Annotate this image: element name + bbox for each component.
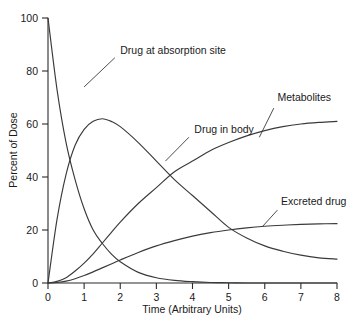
series-label-drug-in-body: Drug in body [194, 123, 254, 135]
x-tick-label: 0 [45, 291, 51, 303]
leader-line-drug-in-body [165, 137, 188, 161]
x-tick-label: 5 [226, 291, 232, 303]
series-label-metabolites: Metabolites [277, 91, 331, 103]
x-tick-label: 3 [153, 291, 159, 303]
pharmacokinetics-chart: 020406080100 Percent of Dose 012345678 T… [0, 0, 354, 323]
y-tick-marks [42, 18, 48, 283]
x-axis-group: 012345678 Time (Arbitrary Units) [45, 283, 340, 315]
x-axis-title: Time (Arbitrary Units) [142, 303, 241, 315]
x-tick-label: 6 [262, 291, 268, 303]
chart-svg: 020406080100 Percent of Dose 012345678 T… [0, 0, 354, 323]
y-tick-label: 20 [26, 224, 38, 236]
x-tick-label: 1 [81, 291, 87, 303]
y-axis-group: 020406080100 Percent of Dose [7, 12, 48, 289]
x-tick-marks [48, 283, 337, 289]
y-tick-label: 100 [20, 12, 38, 24]
x-tick-labels: 012345678 [45, 291, 340, 303]
y-tick-label: 80 [26, 65, 38, 77]
curve-drug-at-absorption-site [48, 18, 337, 283]
y-tick-label: 40 [26, 171, 38, 183]
x-tick-label: 7 [298, 291, 304, 303]
y-tick-label: 60 [26, 118, 38, 130]
series-label-excreted-drug: Excreted drug [281, 195, 347, 207]
series-curves [48, 18, 337, 283]
series-label-drug-at-absorption-site: Drug at absorption site [120, 44, 226, 56]
leader-line-excreted-drug [263, 210, 277, 226]
x-tick-label: 4 [190, 291, 196, 303]
y-tick-label: 0 [32, 277, 38, 289]
series-leader-lines [84, 58, 277, 226]
y-tick-labels: 020406080100 [20, 12, 38, 289]
x-tick-label: 8 [334, 291, 340, 303]
leader-line-drug-at-absorption-site [84, 58, 115, 87]
y-axis-title: Percent of Dose [7, 112, 19, 187]
series-labels: Drug at absorption siteDrug in bodyMetab… [120, 44, 346, 207]
x-tick-label: 2 [117, 291, 123, 303]
leader-line-metabolites [259, 108, 273, 137]
